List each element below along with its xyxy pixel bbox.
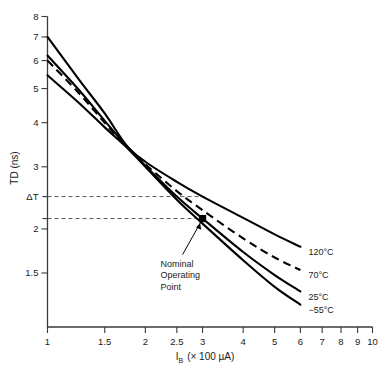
y-tick-label: 8	[33, 11, 38, 22]
x-tick-label: 1	[45, 336, 50, 347]
y-tick-label: 4	[33, 117, 38, 128]
y-axis-title: TD (ns)	[9, 151, 20, 184]
nominal-operating-point-annotation	[183, 215, 207, 255]
x-axis-title: IB(× 100 µA)	[176, 351, 235, 364]
x-tick-label: 6	[298, 336, 303, 347]
y-tick-label: 5	[33, 83, 38, 94]
series-label-55c: −55°C	[308, 305, 334, 315]
x-tick-label: 7	[320, 336, 325, 347]
nominal-operating-point-text: NominalOperatingPoint	[161, 259, 201, 292]
chart-container: 1.52345678 11.522.5345678910 120°C70°C25…	[0, 0, 389, 368]
annotation-text-line: Nominal	[161, 259, 194, 269]
delta-t-label: ΔT	[26, 191, 38, 202]
series-labels-group: 120°C70°C25°C−55°C	[308, 247, 334, 315]
nominal-operating-point-marker	[199, 215, 206, 222]
x-tick-label: 8	[338, 336, 343, 347]
y-tick-label: 3	[33, 161, 38, 172]
y-tick-label: 7	[33, 31, 38, 42]
x-tick-label: 4	[241, 336, 246, 347]
x-tick-label: 5	[272, 336, 277, 347]
x-tick-label: 10	[367, 336, 378, 347]
y-tick-label: 1.5	[25, 267, 38, 278]
x-axis-title-units: (× 100 µA)	[187, 351, 234, 362]
series-curve-120c	[48, 37, 301, 247]
series-label-25c: 25°C	[308, 292, 329, 302]
x-axis-title-subscript: B	[178, 357, 183, 364]
series-curve-70c	[48, 61, 301, 270]
y-axis-ticks: 1.52345678	[25, 11, 47, 279]
y-tick-label: 2	[33, 223, 38, 234]
annotation-text-line: Operating	[161, 270, 201, 280]
y-tick-label: 6	[33, 55, 38, 66]
x-tick-label: 1.5	[98, 336, 111, 347]
series-label-70c: 70°C	[308, 270, 329, 280]
x-tick-label: 2.5	[170, 336, 183, 347]
series-label-120c: 120°C	[308, 247, 334, 257]
annotation-text-line: Point	[161, 282, 182, 292]
x-tick-label: 2	[143, 336, 148, 347]
x-axis-ticks: 11.522.5345678910	[45, 327, 378, 347]
delay-vs-bias-current-chart: 1.52345678 11.522.5345678910 120°C70°C25…	[0, 0, 389, 368]
x-tick-label: 3	[200, 336, 205, 347]
series-curve-25c	[48, 56, 301, 292]
x-tick-label: 9	[355, 336, 360, 347]
